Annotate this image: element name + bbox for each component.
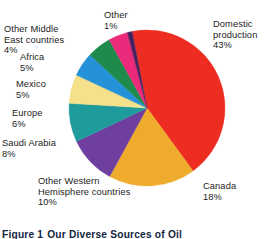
- pie-label-europe-line1: Europe: [12, 108, 43, 118]
- pie-label-other-middle-east: Other Middle East countries 4%: [4, 24, 96, 56]
- pie-label-other: Other 1%: [104, 10, 128, 31]
- pie-label-domestic-production: Domestic production 43%: [213, 19, 279, 51]
- pie-label-other-middle-east-line1: Other Middle: [4, 24, 58, 34]
- figure-container: Domestic production 43% Canada 18% Other…: [0, 0, 279, 239]
- pie-label-mexico-value: 5%: [16, 90, 78, 101]
- pie-label-other-value: 1%: [104, 21, 128, 32]
- pie-label-mexico-line1: Mexico: [16, 79, 46, 89]
- pie-label-canada-line1: Canada: [203, 181, 236, 191]
- pie-label-europe: Europe 6%: [12, 108, 74, 129]
- pie-label-other-line1: Other: [104, 10, 128, 20]
- pie-label-canada-value: 18%: [203, 192, 263, 203]
- pie-label-other-western-hemisphere-value: 10%: [38, 197, 148, 208]
- pie-label-mexico: Mexico 5%: [16, 79, 78, 100]
- pie-label-other-middle-east-line2: East countries: [4, 35, 64, 45]
- pie-label-other-middle-east-value: 4%: [4, 45, 96, 56]
- pie-label-canada: Canada 18%: [203, 181, 263, 202]
- figure-caption: Figure 1Our Diverse Sources of Oil: [2, 229, 182, 239]
- pie-label-other-western-hemisphere-line1: Other Western: [38, 176, 100, 186]
- figure-caption-title: Our Diverse Sources of Oil: [47, 229, 182, 239]
- pie-label-saudi-arabia: Saudi Arabia 8%: [2, 138, 86, 159]
- pie-label-saudi-arabia-line1: Saudi Arabia: [2, 138, 56, 148]
- pie-label-other-western-hemisphere-line2: Hemisphere countries: [38, 187, 130, 197]
- pie-label-domestic-production-line1: Domestic: [213, 19, 253, 29]
- pie-label-domestic-production-line2: production: [213, 30, 257, 40]
- pie-label-europe-value: 6%: [12, 119, 74, 130]
- pie-label-saudi-arabia-value: 8%: [2, 149, 86, 160]
- pie-label-other-western-hemisphere: Other Western Hemisphere countries 10%: [38, 176, 148, 208]
- pie-label-domestic-production-value: 43%: [213, 40, 279, 51]
- figure-caption-label: Figure 1: [2, 229, 43, 239]
- pie-label-africa-value: 5%: [20, 63, 80, 74]
